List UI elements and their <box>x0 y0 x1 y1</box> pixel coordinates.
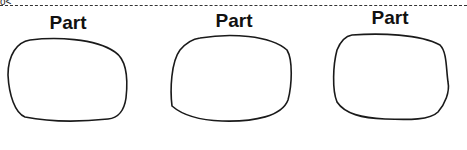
part-shapes <box>0 0 467 150</box>
part-shape-1 <box>8 39 127 121</box>
part-shape-2 <box>171 36 291 122</box>
part-shape-3 <box>334 34 449 119</box>
